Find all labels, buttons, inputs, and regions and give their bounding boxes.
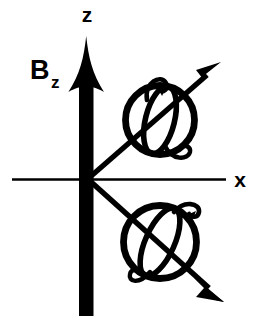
magnetic-field-subscript: z: [51, 73, 60, 92]
spin-field-diagram: z x B z: [0, 0, 259, 329]
diagram-canvas: z x B z: [0, 0, 259, 329]
x-axis-label: x: [234, 168, 246, 191]
z-axis-label: z: [82, 3, 93, 26]
z-axis-bar: [79, 82, 94, 316]
magnetic-field-symbol: B: [30, 55, 50, 85]
